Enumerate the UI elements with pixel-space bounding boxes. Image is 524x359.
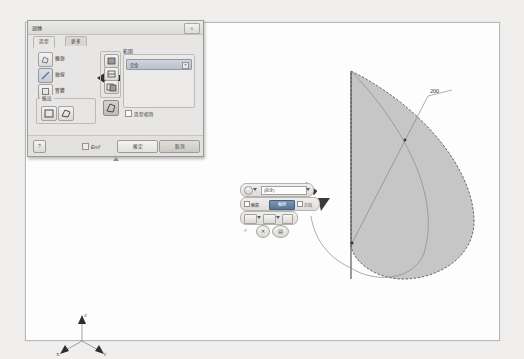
revolved-solid-face xyxy=(351,71,474,279)
solid-output-icon[interactable] xyxy=(41,106,57,121)
tab-shape[interactable]: 造型 xyxy=(33,36,55,48)
close-icon[interactable]: ✕ xyxy=(184,23,200,34)
mini-toolbar-row-extent[interactable]: (完全) xyxy=(240,183,314,197)
axis-toggle-button[interactable]: 軸線 xyxy=(269,200,295,210)
surface-output-icon[interactable] xyxy=(58,106,74,121)
mini-toolbar-row-boolean[interactable] xyxy=(240,211,298,225)
chevron-down-icon[interactable] xyxy=(257,216,261,219)
mini-toolbar[interactable]: (完全) 輪廓 軸線 方向 ✓ ✕ xyxy=(240,183,332,241)
scanned-page: 200 Z X Y (完全) xyxy=(0,0,524,359)
dimension-endpoint xyxy=(350,241,353,244)
axis-label-z: Z xyxy=(84,313,87,318)
profile-checkbox[interactable]: 輪廓 xyxy=(244,201,259,208)
checkbox-box-icon xyxy=(297,201,303,207)
confirm-check-icon[interactable]: ✓ xyxy=(240,225,251,236)
profile-icon[interactable] xyxy=(38,52,53,67)
intersect-icon[interactable] xyxy=(104,80,119,94)
mini-toolbar-row-actions[interactable]: ✓ ✕ ▤ xyxy=(240,225,288,237)
coordinate-axis-triad: Z X Y xyxy=(54,311,110,357)
shape-label-axis: 軸線 xyxy=(55,71,65,77)
dialog-title: 迴轉 xyxy=(32,24,42,31)
chevron-down-icon[interactable]: ▼ xyxy=(182,62,189,69)
dimension-midpoint xyxy=(404,139,407,142)
dialog-body: 造型 更多 輪廓 軸線 xyxy=(31,35,200,136)
match-shape-checkbox[interactable]: 造型相符 xyxy=(125,110,154,117)
new-solid-icon[interactable] xyxy=(103,100,119,116)
cut-icon[interactable] xyxy=(104,67,119,81)
shape-label-solid: 實體 xyxy=(55,87,65,93)
axis-label-y: Y xyxy=(103,352,107,357)
dimension-value-label: 200 xyxy=(430,88,439,94)
extent-combobox[interactable]: 完全 ▼ xyxy=(126,59,192,70)
extent-group-legend: 範圍 xyxy=(123,47,133,54)
extent-combobox-value: 完全 xyxy=(130,62,138,68)
match-shape-label: 造型相符 xyxy=(134,112,154,117)
direction-option[interactable]: 方向 xyxy=(297,201,312,208)
help-icon[interactable]: ? xyxy=(33,140,46,153)
output-group-legend: 輸出 xyxy=(40,95,54,101)
preview-checkbox-label: Emf xyxy=(91,144,100,150)
checkbox-box-icon xyxy=(244,201,250,207)
dialog-resize-grip[interactable] xyxy=(113,157,119,161)
extent-dropdown-arrow-icon[interactable] xyxy=(306,188,310,191)
axis-icon[interactable] xyxy=(38,68,53,83)
axis-label-x: X xyxy=(56,352,60,357)
chevron-down-icon[interactable] xyxy=(276,216,280,219)
mini-toolbar-row-selection[interactable]: 輪廓 軸線 方向 xyxy=(240,197,320,211)
ok-button[interactable]: 確定 xyxy=(117,140,158,153)
angle-input-icon[interactable] xyxy=(282,214,293,224)
shape-label-profile: 輪廓 xyxy=(55,55,65,61)
cancel-button[interactable]: ✕ xyxy=(256,225,270,238)
revolve-dialog[interactable]: 迴轉 ✕ 造型 更多 輪廓 xyxy=(27,20,204,157)
revolve-icon xyxy=(244,186,253,195)
shape-row-axis[interactable]: 軸線 xyxy=(36,68,98,83)
extent-value-field[interactable]: (完全) xyxy=(261,186,307,195)
dialog-panel-shape: 輪廓 軸線 實體 xyxy=(33,46,198,134)
dialog-title-bar[interactable]: 迴轉 ✕ xyxy=(28,21,203,35)
shape-row-profile[interactable]: 輪廓 xyxy=(36,52,98,67)
boolean-operation-group xyxy=(100,51,121,98)
dialog-footer: ? Emf 確定 取消 xyxy=(28,135,203,156)
boolean-cut-icon[interactable] xyxy=(263,214,276,224)
revolve-preview-geometry xyxy=(306,68,516,283)
join-icon[interactable] xyxy=(104,54,119,68)
checkbox-box-icon xyxy=(125,110,132,117)
chevron-down-icon[interactable] xyxy=(253,188,257,191)
output-group: 輸出 xyxy=(36,98,96,124)
checkbox-box-icon xyxy=(82,143,89,150)
preview-checkbox[interactable]: Emf xyxy=(82,143,100,150)
shape-selection-column: 輪廓 軸線 實體 xyxy=(36,52,98,100)
more-options-button[interactable]: ▤ xyxy=(272,225,289,238)
boolean-join-icon[interactable] xyxy=(244,214,257,224)
cancel-button[interactable]: 取消 xyxy=(159,140,200,153)
